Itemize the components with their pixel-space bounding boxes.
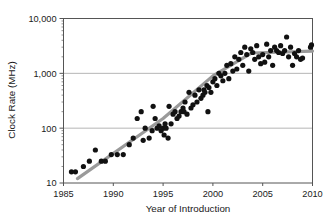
x-axis-tick-label: 1990: [103, 189, 123, 199]
data-point: [194, 99, 199, 104]
data-point: [196, 87, 201, 92]
data-point: [81, 164, 86, 169]
y-axis-title: Clock Rate (MHz): [6, 61, 17, 138]
data-point: [238, 50, 243, 55]
data-point: [127, 142, 132, 147]
data-point: [288, 45, 293, 50]
x-axis-tick-label: 2005: [252, 189, 272, 199]
data-point: [300, 55, 305, 60]
data-point: [266, 54, 271, 59]
data-point: [202, 90, 207, 95]
chart-container: 101001,00010,000 19851990199520002005201…: [0, 0, 336, 221]
data-point: [236, 57, 241, 62]
data-point: [182, 99, 187, 104]
data-point: [244, 52, 249, 57]
x-axis-tick-label: 2000: [203, 189, 223, 199]
data-point: [205, 109, 210, 114]
data-point: [270, 63, 275, 68]
data-point: [296, 48, 301, 53]
data-point: [262, 60, 267, 65]
data-point: [172, 109, 177, 114]
data-point: [240, 63, 245, 68]
y-axis-tick-label: 10,000: [28, 14, 56, 24]
data-point: [226, 76, 231, 81]
data-point: [254, 43, 259, 48]
data-point: [242, 45, 247, 50]
data-point: [222, 71, 227, 76]
data-point: [163, 126, 168, 131]
data-point: [131, 135, 136, 140]
data-point: [268, 48, 273, 53]
data-point: [206, 85, 211, 90]
y-axis-tick-label: 100: [41, 124, 56, 134]
clock-rate-scatter-chart: 101001,00010,000 19851990199520002005201…: [0, 0, 336, 221]
x-axis-tick-label: 2010: [302, 189, 322, 199]
data-point: [93, 147, 98, 152]
data-point: [135, 116, 140, 121]
data-point: [176, 114, 181, 119]
data-point: [250, 50, 255, 55]
data-point: [162, 121, 167, 126]
data-point: [168, 121, 173, 126]
data-point: [214, 83, 219, 88]
data-point: [143, 126, 148, 131]
data-point: [151, 104, 156, 109]
data-point: [87, 159, 92, 164]
data-point: [286, 54, 291, 59]
data-point: [212, 76, 217, 81]
data-point: [234, 66, 239, 71]
data-point: [228, 61, 233, 66]
data-point: [121, 152, 126, 157]
data-point: [166, 104, 171, 109]
data-point: [192, 93, 197, 98]
data-point: [278, 43, 283, 48]
y-axis-tick-label: 1,000: [34, 69, 57, 79]
y-axis-tick-label: 10: [46, 178, 56, 188]
data-point: [103, 159, 108, 164]
data-point: [153, 116, 158, 121]
data-point: [284, 34, 289, 39]
data-point: [115, 152, 120, 157]
x-axis-tick-label: 1985: [53, 189, 73, 199]
data-point: [141, 138, 146, 143]
data-point: [220, 78, 225, 83]
data-point: [109, 152, 114, 157]
data-point: [246, 68, 251, 73]
data-point: [260, 52, 265, 57]
data-point: [186, 90, 191, 95]
x-axis-tick-label: 1995: [153, 189, 173, 199]
data-point: [309, 42, 314, 47]
data-point: [184, 112, 189, 117]
data-point: [208, 90, 213, 95]
data-point: [264, 42, 269, 47]
data-point: [73, 169, 78, 174]
data-point: [165, 135, 170, 140]
x-axis-title: Year of Introduction: [146, 203, 231, 214]
data-point: [290, 63, 295, 68]
data-point: [139, 109, 144, 114]
data-point: [150, 128, 155, 133]
data-point: [147, 135, 152, 140]
data-point: [282, 48, 287, 53]
